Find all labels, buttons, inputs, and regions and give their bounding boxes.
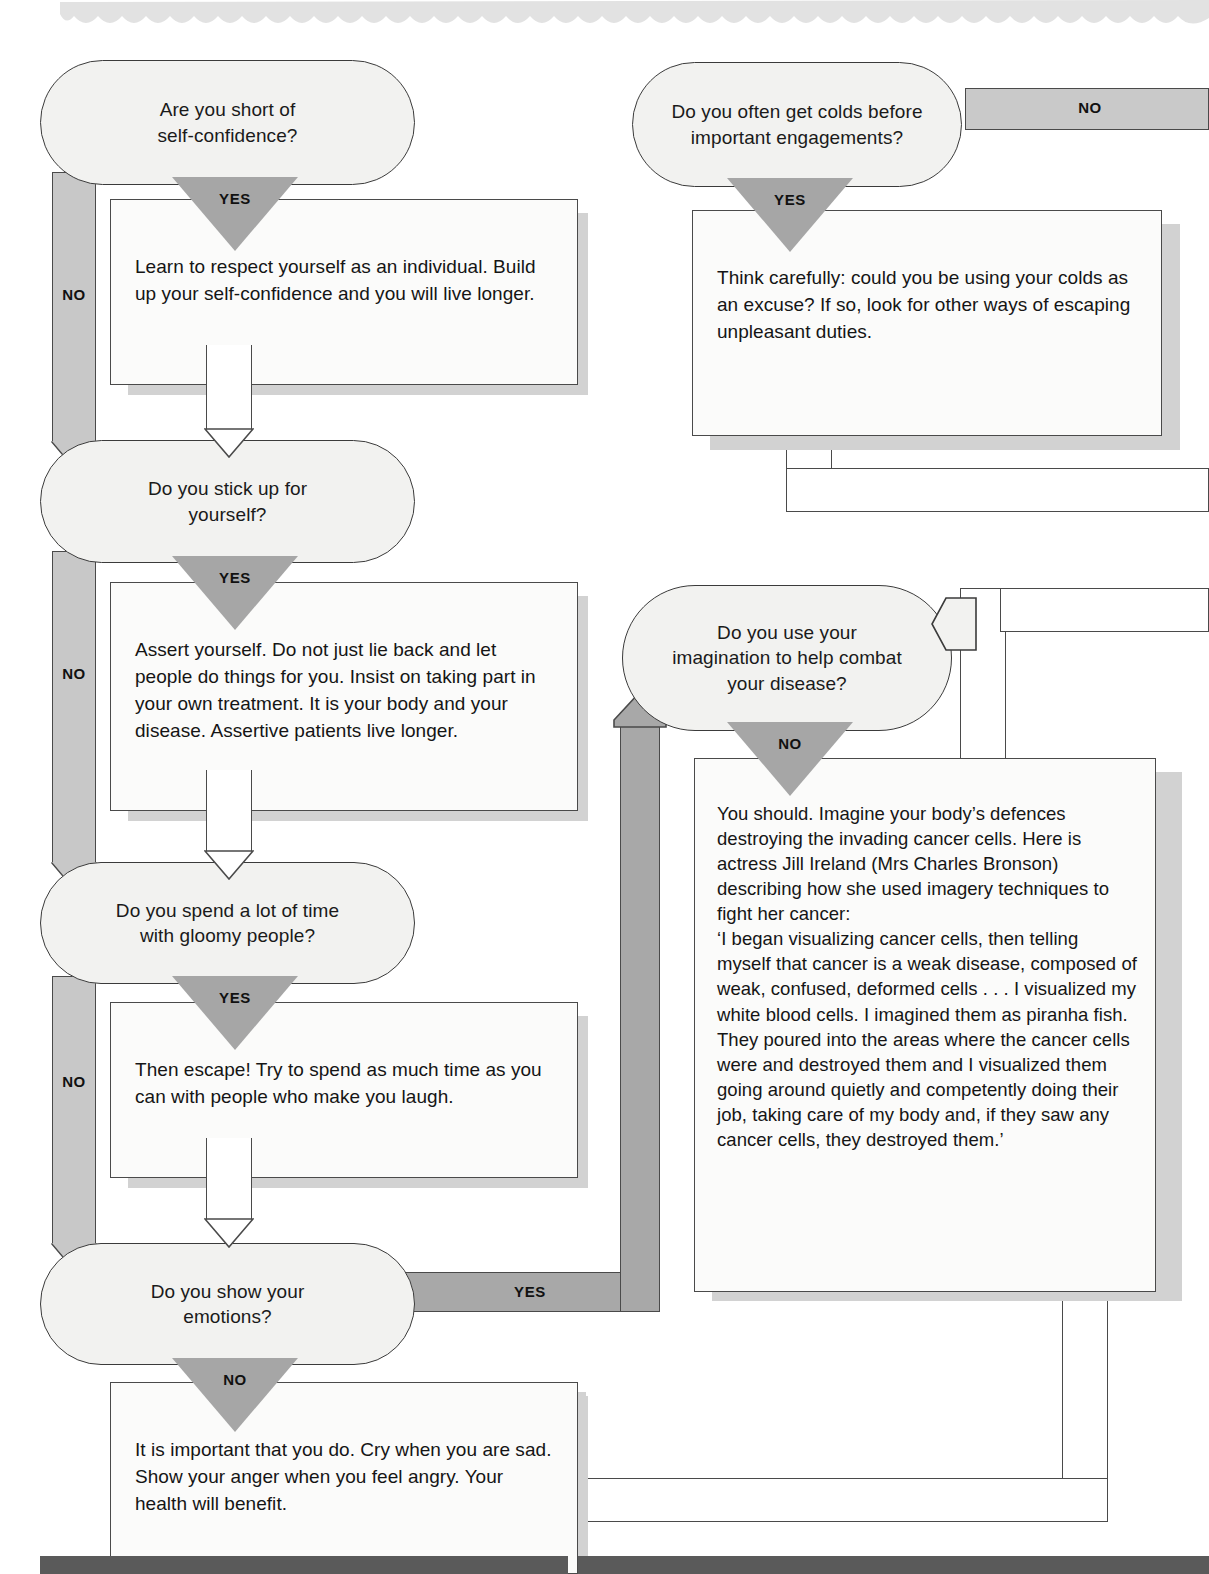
connector-imagination-inbound-arrowhead: [930, 596, 978, 656]
connector-advice-respect-down: [206, 345, 252, 430]
advice-imagination: You should. Imagine your body’s defences…: [694, 758, 1156, 1292]
branch-label-colds-no: NO: [1000, 99, 1180, 116]
connector-no-stick-up: [52, 551, 96, 863]
connector-advice-escape-down: [206, 1138, 252, 1220]
connector-imagination-loop-joint: [1002, 590, 1042, 630]
branch-arrow-imagination-no: [727, 722, 853, 796]
connector-no-gloomy: [52, 976, 96, 1244]
branch-label-gloomy-yes: YES: [172, 989, 298, 1006]
connector-yes-emotions-vertical: [620, 712, 660, 1312]
advice-imagination-text: You should. Imagine your body’s defences…: [717, 801, 1137, 1152]
node-imagination-label: Do you use your imagination to help comb…: [642, 620, 932, 695]
node-colds-label: Do you often get colds before important …: [647, 99, 946, 149]
page-bottom-rule-right: [578, 1556, 1209, 1574]
branch-label-imagination-no: NO: [727, 735, 853, 752]
branch-arrow-emotions-no: [172, 1358, 298, 1432]
connector-advice-assert-arrowhead: [204, 850, 254, 884]
connector-imagination-advice-left: [548, 1478, 1108, 1522]
torn-edge-decoration: [0, 0, 1209, 30]
advice-respect-text: Learn to respect yourself as an individu…: [135, 254, 555, 308]
advice-colds-text: Think carefully: could you be using your…: [717, 265, 1139, 346]
node-show-emotions[interactable]: Do you show your emotions?: [40, 1243, 415, 1365]
node-colds[interactable]: Do you often get colds before important …: [632, 62, 962, 187]
page-bottom-rule-left: [40, 1556, 568, 1574]
advice-emotions-text: It is important that you do. Cry when yo…: [135, 1437, 555, 1518]
branch-arrow-self-confidence-yes: [172, 177, 298, 251]
connector-colds-advice-joint: [788, 470, 832, 510]
connector-advice-respect-arrowhead: [204, 428, 254, 462]
branch-arrow-stick-up-yes: [172, 556, 298, 630]
advice-escape-text: Then escape! Try to spend as much time a…: [135, 1057, 555, 1111]
flowchart-page: NO NO NO Are you short of self-confidenc…: [0, 0, 1209, 1574]
node-gloomy-people-label: Do you spend a lot of time with gloomy p…: [70, 898, 385, 948]
branch-label-emotions-no: NO: [172, 1371, 298, 1388]
node-stick-up-label: Do you stick up for yourself?: [102, 476, 353, 526]
node-show-emotions-label: Do you show your emotions?: [105, 1279, 351, 1329]
advice-assert-text: Assert yourself. Do not just lie back an…: [135, 637, 555, 745]
branch-label-gloomy-no: NO: [52, 1073, 96, 1090]
branch-label-emotions-yes: YES: [430, 1283, 630, 1300]
connector-advice-assert-down: [206, 770, 252, 852]
connector-advice-escape-arrowhead: [204, 1218, 254, 1252]
branch-label-self-confidence-no: NO: [52, 286, 96, 303]
branch-label-stick-up-no: NO: [52, 665, 96, 682]
connector-imagination-advice-joint: [1064, 1480, 1106, 1520]
branch-arrow-gloomy-yes: [172, 976, 298, 1050]
branch-arrow-colds-yes: [727, 178, 853, 252]
connector-colds-advice-right: [786, 468, 1209, 512]
node-imagination[interactable]: Do you use your imagination to help comb…: [622, 585, 952, 731]
branch-label-self-confidence-yes: YES: [172, 190, 298, 207]
branch-label-colds-yes: YES: [727, 191, 853, 208]
connector-no-self-confidence: [52, 172, 96, 442]
node-self-confidence[interactable]: Are you short of self-confidence?: [40, 60, 415, 185]
node-self-confidence-label: Are you short of self-confidence?: [112, 97, 344, 147]
branch-label-stick-up-yes: YES: [172, 569, 298, 586]
